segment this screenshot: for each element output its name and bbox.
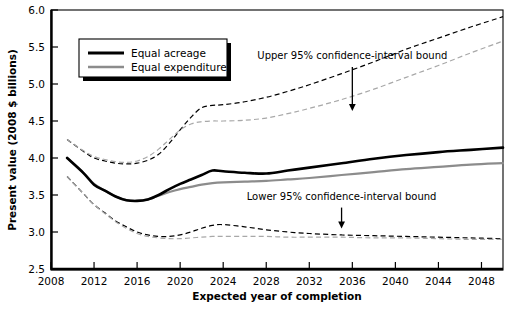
x-tick-label: 2036 <box>339 275 366 287</box>
chart-figure: 2.53.03.54.04.55.05.56.0 200820122016202… <box>0 0 517 311</box>
x-tick-label: 2048 <box>468 275 495 287</box>
annotation-label-upper-bound: Upper 95% confidence-interval bound <box>257 50 447 61</box>
x-tick-label: 2024 <box>210 275 237 287</box>
y-tick-label: 5.5 <box>28 41 45 53</box>
y-tick-label: 6.0 <box>28 4 45 16</box>
y-tick-label: 5.0 <box>28 78 45 90</box>
x-tick-label: 2040 <box>382 275 409 287</box>
x-axis-title: Expected year of completion <box>192 290 361 302</box>
series-line-equal-acreage-lower-95-bound <box>67 177 503 239</box>
y-tick-label: 4.0 <box>28 152 45 164</box>
y-axis-title: Present value (2008 $ billions) <box>6 49 18 231</box>
x-axis-ticks: 2008201220162020202420282032203620402044… <box>38 262 495 287</box>
x-tick-label: 2028 <box>253 275 280 287</box>
x-tick-label: 2044 <box>425 275 452 287</box>
annotation-label-lower-bound: Lower 95% confidence-interval bound <box>247 191 437 202</box>
chart-legend: Equal acreage Equal expenditure <box>79 39 231 81</box>
x-tick-label: 2020 <box>167 275 194 287</box>
y-axis-ticks: 2.53.03.54.04.55.05.56.0 <box>28 4 58 275</box>
x-tick-label: 2012 <box>81 275 108 287</box>
y-tick-label: 3.0 <box>28 226 45 238</box>
legend-label-equal-expenditure: Equal expenditure <box>131 61 227 73</box>
x-tick-label: 2016 <box>124 275 151 287</box>
annotation-layer: Upper 95% confidence-interval boundLower… <box>247 50 448 229</box>
y-tick-label: 3.5 <box>28 189 45 201</box>
x-tick-label: 2032 <box>296 275 323 287</box>
annotation-arrow-head <box>349 104 356 111</box>
annotation-arrow-head <box>338 222 345 229</box>
x-tick-label: 2008 <box>38 275 65 287</box>
legend-label-equal-acreage: Equal acreage <box>131 47 206 59</box>
y-tick-label: 2.5 <box>28 263 45 275</box>
line-chart: 2.53.03.54.04.55.05.56.0 200820122016202… <box>0 0 517 311</box>
y-tick-label: 4.5 <box>28 115 45 127</box>
